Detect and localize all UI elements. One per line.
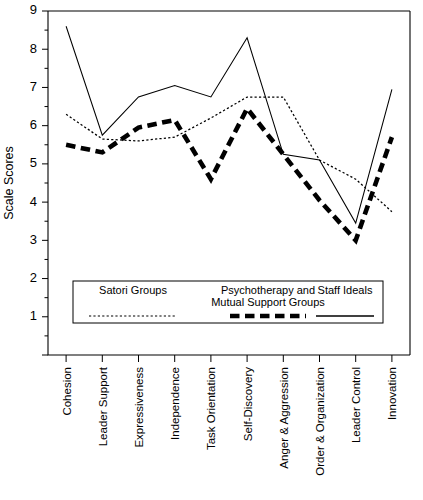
y-axis-title: Scale Scores <box>2 146 16 220</box>
x-label-1: Leader Support <box>97 366 109 446</box>
x-label-0: Cohesion <box>61 367 73 416</box>
legend-label-0-line1: Satori Groups <box>99 284 167 296</box>
y-tick-label-7: 7 <box>30 79 37 94</box>
legend-label-2-line1: Staff Ideals <box>318 284 373 296</box>
scale-scores-line-chart: Scale Scores 123456789 CohesionLeader Su… <box>0 0 423 500</box>
legend-label-1-line1: Psychotherapy and <box>221 284 315 296</box>
y-tick-label-2: 2 <box>30 270 37 285</box>
x-label-7: Order & Organization <box>314 367 326 476</box>
x-label-6: Anger & Aggression <box>278 367 290 469</box>
x-label-5: Self-Discovery <box>242 367 254 441</box>
x-label-4: Task Orientation <box>205 367 217 450</box>
y-tick-label-5: 5 <box>30 155 37 170</box>
x-label-3: Independence <box>169 367 181 440</box>
y-axis-label: Scale Scores <box>2 146 16 220</box>
y-tick-label-8: 8 <box>30 41 37 56</box>
x-label-2: Expressiveness <box>133 367 145 448</box>
x-label-9: Innovation <box>386 367 398 420</box>
y-tick-label-6: 6 <box>30 117 37 132</box>
chart-container: Scale Scores 123456789 CohesionLeader Su… <box>0 0 423 500</box>
y-tick-label-1: 1 <box>30 308 37 323</box>
legend-label-1-line2: Mutual Support Groups <box>211 296 325 308</box>
y-tick-label-4: 4 <box>30 194 37 209</box>
x-label-8: Leader Control <box>350 367 362 443</box>
chart-legend: Satori GroupsPsychotherapy andMutual Sup… <box>73 281 383 323</box>
y-tick-label-9: 9 <box>30 2 37 17</box>
y-tick-label-3: 3 <box>30 232 37 247</box>
